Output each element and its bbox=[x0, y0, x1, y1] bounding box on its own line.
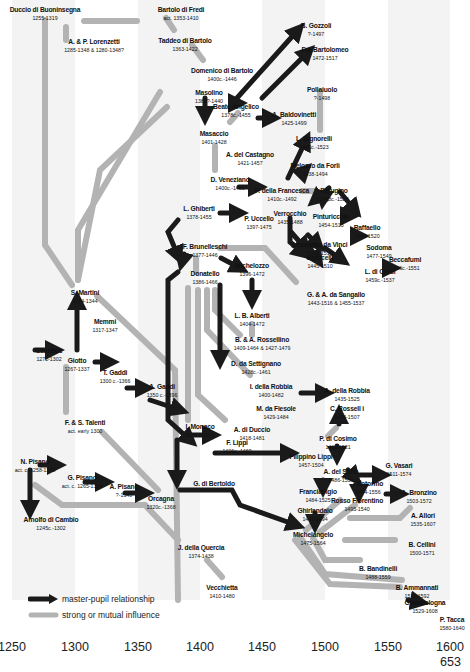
artist-node: G. & A. da Sangallo1443-1516 & 1455-1537 bbox=[303, 291, 370, 306]
artist-node: C. Rossell i1434-1507 bbox=[328, 405, 367, 420]
artist-dates: 1443-1516 & 1455-1537 bbox=[308, 300, 365, 306]
artist-name: Rosso Fiorentino bbox=[331, 497, 383, 505]
artist-node: A. della Robbia1435-1525 bbox=[321, 387, 373, 402]
artist-node: Verrocchio1435-1488 bbox=[271, 210, 308, 225]
artist-dates: 1255-1319 bbox=[11, 15, 79, 21]
artist-name: F. & S. Talenti bbox=[65, 419, 105, 427]
artist-name: I. della Robbia bbox=[250, 383, 293, 391]
artist-node: L. B. Alberti1404-1472 bbox=[232, 312, 272, 327]
artist-node: Vecchietta1410-1480 bbox=[204, 584, 240, 599]
artist-node: N. Pisanoact. c. 1258-1278 bbox=[11, 458, 59, 473]
artist-name: P. Uccello bbox=[244, 215, 273, 223]
axis-tick-label: 1500 bbox=[311, 640, 339, 654]
artist-dates: 1495-1540 bbox=[332, 506, 382, 512]
artist-name: Vecchietta bbox=[206, 584, 237, 592]
artist-dates: 1435-1488 bbox=[274, 219, 306, 225]
artist-node: Cimabue1272-1302 bbox=[34, 347, 65, 362]
artist-dates: 1378c.-1455 bbox=[214, 112, 258, 118]
artist-dates: ?-1497 bbox=[301, 31, 330, 37]
artist-dates: 1435-1525 bbox=[325, 396, 369, 402]
artist-dates: 1445-1510 bbox=[307, 263, 333, 269]
artist-dates: 1401-1428 bbox=[200, 139, 228, 145]
artist-dates: 1494-1556 bbox=[353, 489, 382, 495]
artist-name: Filippino Lippi bbox=[289, 453, 332, 461]
artist-name: N. Pisano bbox=[14, 458, 56, 466]
artist-name: P. della Francesca bbox=[255, 187, 309, 195]
artist-name: Melozzo da Forlì bbox=[290, 162, 339, 170]
artist-dates: 1409-1464 & 1427-1479 bbox=[234, 345, 291, 351]
artist-dates: 1284-1344 bbox=[71, 298, 98, 304]
artist-dates: 1449-1494 bbox=[298, 516, 332, 522]
artist-name: C. Rossell i bbox=[330, 405, 364, 413]
artist-node: Masaccio1401-1428 bbox=[198, 130, 231, 145]
artist-node: Bartolo di Frediact. 1353-1410 bbox=[155, 6, 208, 21]
artist-node: F. Brunelleschi1377-1446 bbox=[180, 243, 231, 258]
artist-dates: ?-1348 bbox=[110, 492, 138, 498]
axis-tick-label: 1300 bbox=[61, 640, 89, 654]
artist-dates: 1410c.-1492 bbox=[256, 196, 308, 202]
axis-tick-label: 1250 bbox=[0, 640, 26, 654]
artist-dates: act. early 1300 bbox=[66, 428, 105, 434]
artist-name: M. da Fiesole bbox=[256, 405, 296, 413]
artist-name: A. della Robbia bbox=[324, 387, 370, 395]
artist-dates: 1421-1457 bbox=[227, 160, 273, 166]
artist-dates: 1317-1347 bbox=[92, 327, 117, 333]
artist-name: I. Monaco bbox=[184, 423, 216, 431]
artist-name: Ghirlandaio bbox=[297, 507, 332, 515]
artist-dates: 1378-1455 bbox=[184, 214, 214, 220]
artist-dates: 1350 c.-1396 bbox=[147, 392, 178, 398]
artist-node: Fra Bartolomeo1472-1517 bbox=[298, 46, 351, 61]
artist-name: B. Ammannati bbox=[396, 584, 439, 592]
artist-node: A. Pisano?-1348 bbox=[108, 483, 141, 498]
artist-node: P. della Francesca1410c.-1492 bbox=[251, 187, 313, 202]
artist-node: B. Cellini1500-1571 bbox=[407, 541, 438, 556]
artist-dates: 1425-1499 bbox=[273, 120, 316, 126]
artist-node: A. Gaddi1350 c.-1396 bbox=[144, 383, 180, 398]
artist-node: Ghirlandaio1449-1494 bbox=[295, 507, 335, 522]
artist-node: Filippino Lippi1457-1504 bbox=[287, 453, 336, 468]
artist-name: Memmi bbox=[92, 318, 118, 326]
artist-dates: 1285-1348 & 1280-1348? bbox=[64, 47, 124, 53]
artist-lineage-diagram: Duccio di Buoninsegna1255-1319A. & P. Lo… bbox=[0, 0, 470, 672]
artist-node: Botticelli1445-1510 bbox=[305, 254, 335, 269]
artist-name: Masolino bbox=[194, 89, 223, 97]
artist-name: Bartolo di Fredi bbox=[158, 6, 205, 14]
artist-dates: 1396-1472 bbox=[236, 271, 269, 277]
artist-node: L. Signorelli1445c.-1523 bbox=[294, 135, 335, 150]
artist-name: Fra Bartolomeo bbox=[302, 46, 349, 54]
artist-node: Pontormo1494-1556 bbox=[351, 480, 385, 495]
artist-node: Raffaello1483-1520 bbox=[352, 224, 382, 239]
artist-name: A. Bronzino bbox=[401, 489, 437, 497]
artist-node: G. di Bertoldo bbox=[190, 480, 237, 488]
axis-tick-label: 1350 bbox=[124, 640, 152, 654]
artist-node: B. & A. Rossellino1409-1464 & 1427-1479 bbox=[229, 336, 296, 351]
artist-node: J. della Quercia1374-1438 bbox=[175, 544, 228, 559]
artist-node: M. da Fiesole1429-1484 bbox=[253, 405, 298, 420]
artist-dates: 1445c.-1523 bbox=[297, 144, 332, 150]
artist-dates: ?-1498 bbox=[307, 95, 336, 101]
artist-dates: 1400c.-1446 bbox=[192, 76, 252, 82]
artist-node: P. di Cosimo1461-1521 bbox=[317, 435, 360, 450]
artist-name: B. Gozzoli bbox=[301, 22, 332, 30]
artist-dates: 1377-1446 bbox=[183, 252, 226, 258]
artist-node: Orcagna1320c.-1368 bbox=[144, 495, 178, 510]
artist-node: Taddeo di Bartolo1363-1422 bbox=[155, 37, 216, 52]
artist-name: Domenico di Bartolo bbox=[191, 67, 253, 75]
artist-name: D. Veneziano bbox=[210, 176, 249, 184]
artist-name: J. della Quercia bbox=[178, 544, 225, 552]
artist-node: F. & S. Talentiact. early 1300 bbox=[62, 419, 108, 434]
artist-dates: 1503-1572 bbox=[402, 498, 436, 504]
artist-node: I. Monaco1370-1425 c. bbox=[182, 423, 218, 438]
artist-dates: 1397-1475 bbox=[245, 224, 273, 230]
axis-tick-label: 1400 bbox=[186, 640, 214, 654]
artist-dates: 1410-1480 bbox=[207, 593, 237, 599]
artist-name: F. Lippi bbox=[222, 439, 252, 447]
artist-dates: 1272-1302 bbox=[36, 356, 62, 362]
artist-name: P. Tacca bbox=[439, 616, 465, 624]
artist-dates: act. c. 1258-1278 bbox=[15, 467, 56, 473]
artist-node: A. & P. Lorenzetti1285-1348 & 1280-1348? bbox=[59, 38, 129, 53]
artist-dates: 1483-1520 bbox=[354, 233, 380, 239]
artist-dates: act. 1353-1410 bbox=[159, 15, 204, 21]
artist-dates: 1500-1571 bbox=[409, 550, 435, 556]
artist-name: L. di Credi bbox=[365, 268, 396, 276]
